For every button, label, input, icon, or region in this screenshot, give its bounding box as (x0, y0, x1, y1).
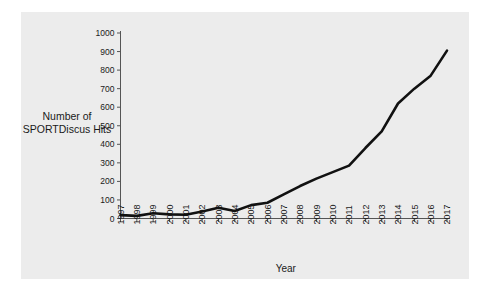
y-tick-label: 300 (100, 158, 114, 168)
data-series-line (121, 51, 448, 216)
y-tick-label: 1000 (96, 28, 115, 38)
y-axis-title-line1: Number of (42, 110, 91, 122)
y-tick-label: 900 (100, 47, 114, 57)
x-tick-label: 2015 (410, 204, 420, 224)
x-tick-label: 2008 (295, 204, 305, 224)
y-axis-title-line2: SPORTDiscus Hits (23, 123, 112, 135)
x-tick-label: 2012 (361, 204, 371, 224)
x-tick-label: 2011 (344, 205, 354, 224)
y-tick-label: 400 (100, 139, 114, 149)
x-tick-label: 2017 (442, 204, 452, 224)
x-tick-label: 2007 (279, 204, 289, 224)
y-tick-label: 0 (110, 214, 115, 224)
y-axis-title: Number ofSPORTDiscus Hits (23, 110, 112, 135)
x-tick-label: 2013 (377, 204, 387, 224)
x-tick-label: 2009 (312, 204, 322, 224)
y-tick-label: 100 (100, 195, 114, 205)
y-tick-label: 600 (100, 102, 114, 112)
x-tick-label: 2014 (393, 204, 403, 224)
x-tick-label: 2010 (328, 204, 338, 224)
x-tick-label: 2002 (197, 204, 207, 224)
x-tick-label: 2004 (230, 204, 240, 224)
y-tick-label: 800 (100, 65, 114, 75)
y-tick-label: 700 (100, 84, 114, 94)
x-tick-label: 2016 (426, 204, 436, 224)
x-tick-label: 2006 (263, 204, 273, 224)
chart-figure: 0100200300400500600700800900100019971998… (0, 0, 485, 292)
y-tick-label: 200 (100, 176, 114, 186)
x-axis-title: Year (276, 263, 297, 274)
line-chart: 0100200300400500600700800900100019971998… (0, 0, 485, 292)
